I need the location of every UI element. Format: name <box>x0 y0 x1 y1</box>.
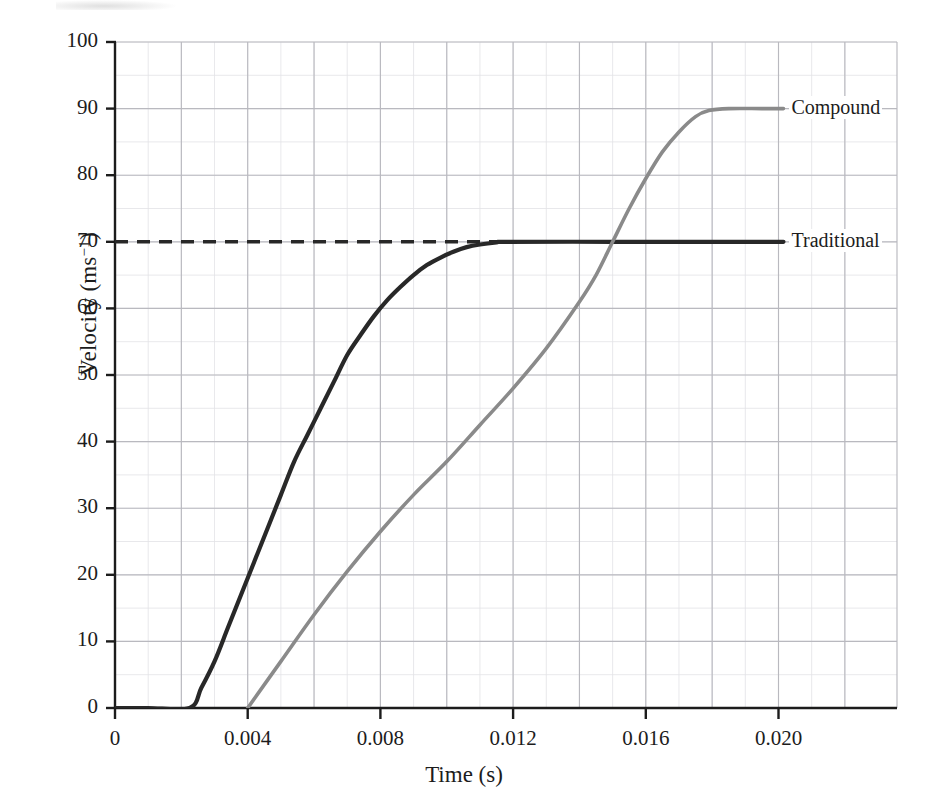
x-axis-tick-label: 0.004 <box>188 726 308 751</box>
series-label-traditional: Traditional <box>789 229 881 252</box>
y-axis-tick-label: 80 <box>28 161 98 186</box>
x-axis-tick-label: 0.012 <box>453 726 573 751</box>
chart-plot-svg <box>0 0 928 812</box>
y-axis-tick-label: 10 <box>28 627 98 652</box>
x-axis-tick-label: 0.020 <box>719 726 839 751</box>
series-label-compound: Compound <box>789 96 882 119</box>
y-axis-tick-label: 30 <box>28 494 98 519</box>
y-axis-tick-label: 90 <box>28 95 98 120</box>
y-axis-tick-label: 50 <box>28 361 98 386</box>
x-axis-tick-label: 0.016 <box>586 726 706 751</box>
x-axis-tick-label: 0.008 <box>320 726 440 751</box>
y-axis-tick-label: 60 <box>28 294 98 319</box>
x-axis-title: Time (s) <box>0 762 928 788</box>
y-axis-tick-label: 40 <box>28 428 98 453</box>
velocity-time-chart-figure: Velocity (ms−1) Time (s) 010203040506070… <box>0 0 928 812</box>
y-axis-tick-label: 70 <box>28 228 98 253</box>
x-axis-tick-label: 0 <box>55 726 175 751</box>
y-axis-tick-label: 100 <box>28 28 98 53</box>
y-axis-tick-label: 0 <box>28 694 98 719</box>
y-axis-tick-label: 20 <box>28 561 98 586</box>
